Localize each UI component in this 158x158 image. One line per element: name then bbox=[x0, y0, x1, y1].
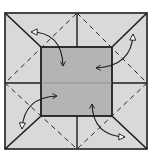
center-square bbox=[41, 47, 112, 116]
origami-diagram bbox=[0, 0, 158, 158]
diagram-canvas bbox=[0, 0, 158, 158]
